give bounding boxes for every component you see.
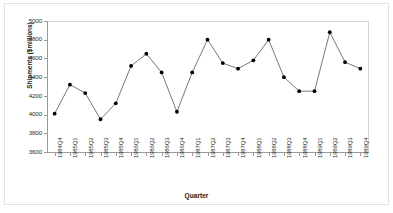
- data-point: [114, 101, 118, 105]
- data-point: [144, 52, 148, 56]
- data-point: [221, 61, 225, 65]
- data-point: [206, 38, 210, 42]
- data-point: [175, 110, 179, 114]
- data-point: [129, 64, 133, 68]
- data-point: [297, 89, 301, 93]
- data-point: [83, 91, 87, 95]
- data-point: [160, 71, 164, 75]
- data-point: [282, 75, 286, 79]
- data-point: [53, 112, 57, 116]
- data-point: [236, 67, 240, 71]
- data-point: [343, 60, 347, 64]
- data-point: [313, 89, 317, 93]
- data-point: [99, 117, 103, 121]
- data-point: [190, 71, 194, 75]
- series-markers: [53, 30, 363, 121]
- data-point: [358, 67, 362, 71]
- data-point: [251, 58, 255, 62]
- series-line: [55, 32, 361, 119]
- data-series-layer: [0, 0, 393, 213]
- data-point: [328, 30, 332, 34]
- x-axis-title: Quarter: [0, 192, 393, 199]
- data-point: [267, 38, 271, 42]
- data-point: [68, 83, 72, 87]
- shipments-quarterly-line-chart: Shipments ($millions) 500048004600440042…: [0, 0, 393, 213]
